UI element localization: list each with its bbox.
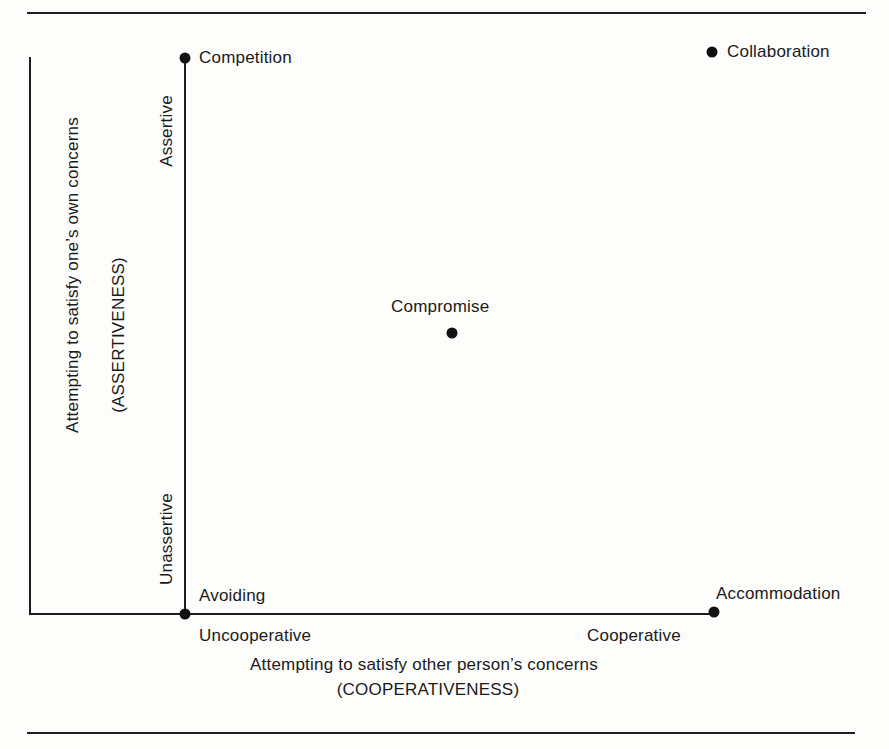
competition-label: Competition <box>199 49 292 66</box>
top-rule <box>27 12 866 14</box>
avoiding-point <box>180 609 191 620</box>
conflict-mode-diagram: Competition Collaboration Compromise Avo… <box>0 0 889 749</box>
y-title-bracket-line <box>29 57 31 615</box>
compromise-point <box>447 328 458 339</box>
accommodation-label: Accommodation <box>716 585 841 602</box>
y-axis-subtitle: (ASSERTIVENESS) <box>110 257 127 413</box>
competition-point <box>180 53 191 64</box>
x-axis-subtitle: (COOPERATIVENESS) <box>337 681 520 698</box>
avoiding-label: Avoiding <box>199 587 266 604</box>
bottom-rule <box>27 732 855 734</box>
compromise-label: Compromise <box>391 298 489 315</box>
collaboration-label: Collaboration <box>727 43 830 60</box>
y-axis-title: Attempting to satisfy one’s own concerns <box>64 117 81 433</box>
x-axis-line <box>29 613 715 615</box>
x-axis-low-label: Uncooperative <box>199 627 311 644</box>
collaboration-point <box>707 47 718 58</box>
x-axis-high-label: Cooperative <box>587 627 681 644</box>
x-axis-title: Attempting to satisfy other person’s con… <box>250 656 598 673</box>
y-axis-low-label: Unassertive <box>158 493 175 585</box>
accommodation-point <box>709 607 720 618</box>
y-axis-line <box>184 57 186 614</box>
y-axis-high-label: Assertive <box>158 95 175 167</box>
